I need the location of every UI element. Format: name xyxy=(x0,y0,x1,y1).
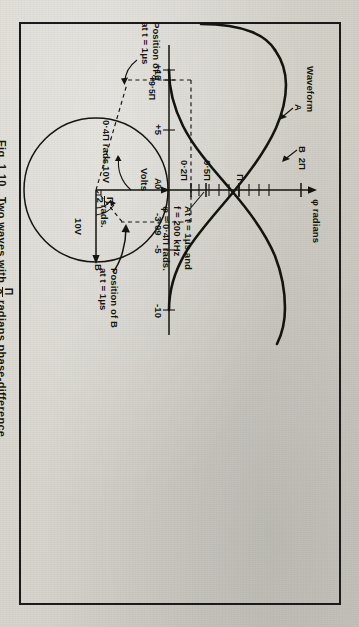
caption-text-b: radians phase-difference. xyxy=(0,300,8,441)
callout-b-line-2: at t = 1μs xyxy=(97,268,108,328)
note-line-2: f = 200 kHz xyxy=(171,206,182,271)
caption-fraction-numerator: Π xyxy=(2,287,13,297)
phasor-angle-b-label: Π 2 rads. xyxy=(95,196,114,228)
x-tick-02pi: 0·2Π xyxy=(178,160,189,181)
x-tick-pi: Π xyxy=(234,174,245,181)
callout-position-b: Position of B at t = 1μs xyxy=(97,268,119,328)
callout-position-a: Position of A at t = 1μs xyxy=(139,22,161,82)
note-line-3: φ = 0·4Π rads. xyxy=(160,206,171,271)
note-block: At t = 1μs and f = 200 kHz φ = 0·4Π rads… xyxy=(160,206,193,271)
curve-a-label: A xyxy=(292,104,303,111)
angle-b-numerator: Π xyxy=(104,196,114,205)
callout-a-line-2: at t = 1μs xyxy=(139,22,150,82)
caption-fraction: Π 2 xyxy=(0,287,13,297)
caption-text-a: Two waves with xyxy=(0,197,8,284)
callout-a-line-1: Position of A xyxy=(150,22,161,82)
note-line-1: At t = 1μs and xyxy=(182,206,193,271)
angle-b-denominator: 2 xyxy=(95,196,104,205)
callout-b-line-1: Position of B xyxy=(108,268,119,328)
caption-fraction-denominator: 2 xyxy=(0,287,2,297)
phasor-amplitude-vertical-label: 10V xyxy=(100,166,111,183)
scanned-page: φ radians 2Π Π 0·5Π 0·2Π +10 +9·5Π +5 0 … xyxy=(0,0,359,627)
phasor-axis-a-label: A xyxy=(152,178,163,185)
x-axis-label: φ radians xyxy=(310,199,321,243)
y-tick-minus10: -10 xyxy=(152,304,163,318)
y-axis-label: Volts xyxy=(138,168,149,191)
curve-b-label: B xyxy=(296,146,307,153)
callout-b-arrow xyxy=(113,228,126,272)
angle-arc-a xyxy=(118,157,131,190)
angle-b-suffix: rads. xyxy=(99,205,110,228)
x-tick-05pi: 0·5Π xyxy=(201,160,212,181)
phasor-angle-a-label: 0·4Π rads. xyxy=(100,120,111,167)
angle-b-fraction: Π 2 xyxy=(95,196,114,205)
rotated-figure-container: φ radians 2Π Π 0·5Π 0·2Π +10 +9·5Π +5 0 … xyxy=(0,0,359,627)
figure-caption: Fig. 1.10 Two waves with Π 2 radians pha… xyxy=(0,140,13,441)
phasor-amplitude-horizontal-label: 10V xyxy=(72,218,83,235)
waveform-group-label: Waveform xyxy=(304,66,315,112)
waveform-axes xyxy=(163,45,317,335)
waveform-curve-a-second xyxy=(201,24,275,50)
x-tick-2pi: 2Π xyxy=(296,158,307,170)
caption-number: Fig. 1.10 xyxy=(0,140,8,187)
y-tick-plus5: +5 xyxy=(152,124,163,135)
